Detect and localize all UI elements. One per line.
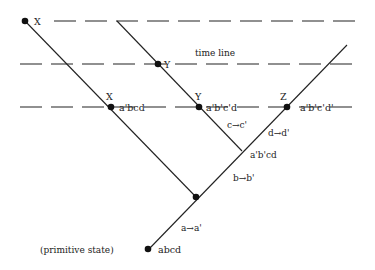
transition-a: a→a' [181, 223, 202, 233]
state-y-low: a'b'c'd [206, 102, 237, 113]
node-ancestor [193, 194, 200, 201]
node-y-low [196, 104, 203, 111]
transition-d: d→d' [268, 128, 290, 138]
lineage-y [117, 21, 242, 151]
node-x-low [108, 104, 115, 111]
labels: X time line Y X a'bcd Y a'b'c'd Z a'b'c'… [34, 16, 334, 255]
node-x-top [22, 18, 29, 25]
lineages [25, 21, 347, 249]
label-z-low: Z [280, 91, 287, 102]
node-primitive [145, 246, 152, 253]
label-primitive: (primitive state) [40, 245, 114, 255]
node-z-low [284, 104, 291, 111]
state-z-low: a'b'c'd' [300, 102, 334, 113]
state-branch-bd: a'b'cd [250, 150, 277, 160]
state-primitive: abcd [158, 244, 181, 255]
label-time-line: time line [195, 48, 235, 58]
node-y-mid [155, 61, 162, 68]
label-y-mid: Y [163, 59, 171, 70]
lineage-trunk-z [149, 45, 347, 249]
transition-b: b→b' [233, 173, 255, 183]
label-x-top: X [34, 16, 41, 27]
label-x-low: X [106, 91, 113, 102]
phylogeny-time-diagram: X time line Y X a'bcd Y a'b'c'd Z a'b'c'… [0, 0, 375, 270]
state-x-low: a'bcd [119, 102, 145, 113]
label-y-low: Y [194, 91, 202, 102]
transition-c: c→c' [227, 120, 247, 130]
nodes [22, 18, 291, 253]
